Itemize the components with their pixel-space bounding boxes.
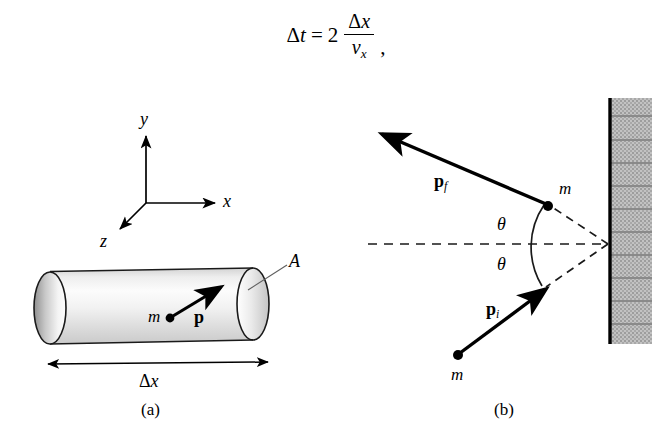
- momentum-vectors: [382, 134, 553, 360]
- cylinder-mass-label: m: [148, 308, 160, 325]
- outgoing-dashed-line: [549, 205, 608, 244]
- z-axis-label: z: [100, 232, 107, 250]
- final-momentum-vector: [382, 134, 546, 204]
- cylinder-right-endcap: [237, 268, 269, 340]
- x-axis-label: x: [223, 192, 231, 210]
- angle-arc: [531, 205, 544, 286]
- initial-momentum-label: pi: [486, 300, 499, 321]
- final-momentum-label: pf: [434, 172, 447, 193]
- cylinder: [34, 265, 287, 344]
- initial-momentum-vector: [460, 289, 546, 353]
- figure-canvas: [0, 0, 672, 428]
- wall-hatch-fill: [610, 98, 652, 344]
- initial-mass-label: m: [451, 366, 463, 383]
- physics-figure: Δt = 2 Δx vx ,: [0, 0, 672, 428]
- angle-label-top: θ: [497, 215, 506, 233]
- coordinate-axes: [120, 136, 215, 229]
- z-axis-arrow: [120, 203, 146, 229]
- panel-a-caption: (a): [141, 401, 160, 418]
- wall: [610, 98, 652, 344]
- cylinder-momentum-label: p: [194, 308, 204, 326]
- cylinder-body: [50, 268, 253, 344]
- final-mass-label: m: [559, 180, 571, 197]
- angle-label-bottom: θ: [497, 255, 506, 273]
- y-axis-label: y: [140, 110, 148, 128]
- construction-lines: [368, 205, 608, 287]
- cylinder-area-label: A: [289, 252, 300, 270]
- panel-b-caption: (b): [494, 401, 514, 418]
- cylinder-length-label: Δx: [139, 372, 159, 390]
- length-dimension-arrow: [48, 362, 268, 364]
- incoming-dashed-line: [546, 244, 608, 287]
- cylinder-left-endcap: [34, 272, 66, 344]
- delta-x-double-arrow: [48, 362, 268, 364]
